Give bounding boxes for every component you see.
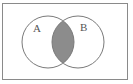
set-b-label: B — [80, 21, 87, 33]
venn-diagram: A B — [0, 0, 133, 84]
set-a-label: A — [33, 22, 41, 34]
